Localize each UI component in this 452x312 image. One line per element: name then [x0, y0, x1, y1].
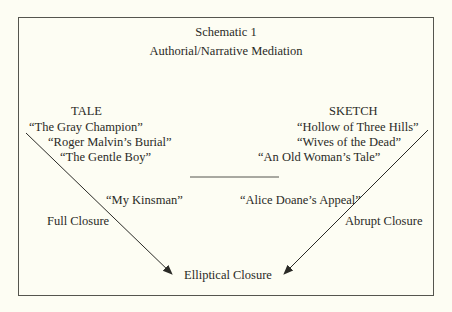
full-closure-arrow-icon — [26, 133, 172, 274]
abrupt-closure-arrow-icon — [284, 130, 428, 274]
arrows-layer — [0, 0, 452, 312]
